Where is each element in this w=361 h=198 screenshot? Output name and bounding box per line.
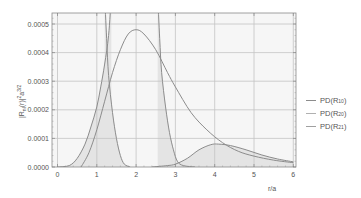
svg-text:0: 0 [56,171,60,178]
svg-text:0.0005: 0.0005 [28,21,50,28]
svg-text:0.0000: 0.0000 [28,164,50,171]
legend-swatch-r21 [306,126,316,127]
svg-text:3: 3 [173,171,177,178]
svg-text:4: 4 [213,171,217,178]
x-axis-label: r/a [268,185,276,192]
svg-text:0.0002: 0.0002 [28,106,50,113]
svg-text:|Rnl(r)|2a3/2: |Rnl(r)|2a3/2 [16,85,27,118]
svg-text:5: 5 [252,171,256,178]
svg-text:0.0004: 0.0004 [28,49,50,56]
legend-swatch-r10 [306,100,316,101]
svg-text:0.0001: 0.0001 [28,135,50,142]
svg-text:6: 6 [291,171,295,178]
legend-item-r10: PD(R10) [306,94,346,107]
legend: PD(R10) PD(R20) PD(R21) [306,94,346,133]
svg-text:2: 2 [134,171,138,178]
legend-item-r20: PD(R20) [306,107,346,120]
y-axis-label: |Rnl(r)|2a3/2 [16,85,27,118]
legend-swatch-r20 [306,113,316,114]
svg-text:0.0003: 0.0003 [28,78,50,85]
plot-area [52,0,296,167]
legend-item-r21: PD(R21) [306,120,346,133]
svg-text:1: 1 [95,171,99,178]
